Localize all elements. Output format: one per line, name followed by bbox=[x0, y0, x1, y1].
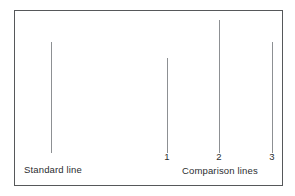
standard-line-caption: Standard line bbox=[24, 164, 82, 175]
figure-border bbox=[14, 10, 283, 186]
comparison-lines-caption: Comparison lines bbox=[182, 165, 258, 176]
line-judgment-figure: 1 2 3 Standard line Comparison lines bbox=[0, 0, 295, 196]
